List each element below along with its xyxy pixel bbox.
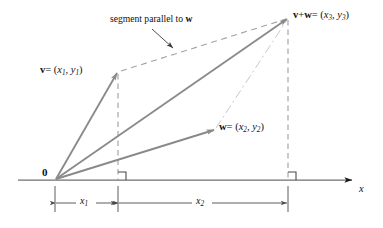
annotation-vector-w: w [185,13,192,24]
sum-equals: = ( [312,9,324,20]
label-dimension-x2: x2 [196,196,204,206]
dim-x2-subscript: 2 [200,200,204,208]
diagram-canvas [0,0,383,228]
dim-x1-subscript: 1 [84,200,88,208]
v-y-subscript: 1 [75,69,79,77]
v-equals: = ( [45,64,57,75]
right-angle-x3-icon [288,172,296,180]
label-dimension-x1: x1 [80,196,88,206]
label-vector-w: w= (x2, y2) [219,122,264,133]
label-x-axis: x [359,184,364,195]
right-angle-x1-icon [118,172,126,180]
label-v-plus-w: v+w= (x3, y3) [293,10,349,21]
v-x-subscript: 1 [62,69,66,77]
w-y-subscript: 2 [257,126,261,134]
label-vector-v: v= (x1, y1) [40,65,83,76]
sum-w-symbol: w [304,9,312,20]
parallel-segment [121,19,286,71]
w-close-paren: ) [260,121,264,132]
parallel-segment-annotation: segment parallel to w [110,14,192,24]
v-close-paren: ) [79,64,83,75]
w-x-subscript: 2 [243,126,247,134]
vector-addition-diagram: segment parallel to w v+w= (x3, y3) v= (… [0,0,383,228]
sum-close-paren: ) [346,9,350,20]
sum-x-subscript: 3 [328,14,332,22]
sum-y-subscript: 3 [342,14,346,22]
w-translate-segment [216,20,287,128]
label-origin: 0 [42,167,48,178]
annotation-text: segment parallel to [110,13,183,24]
w-equals: = ( [227,121,239,132]
w-symbol: w [219,121,227,132]
vector-v-plus-w [56,19,287,179]
annotation-leader-line [152,29,173,48]
